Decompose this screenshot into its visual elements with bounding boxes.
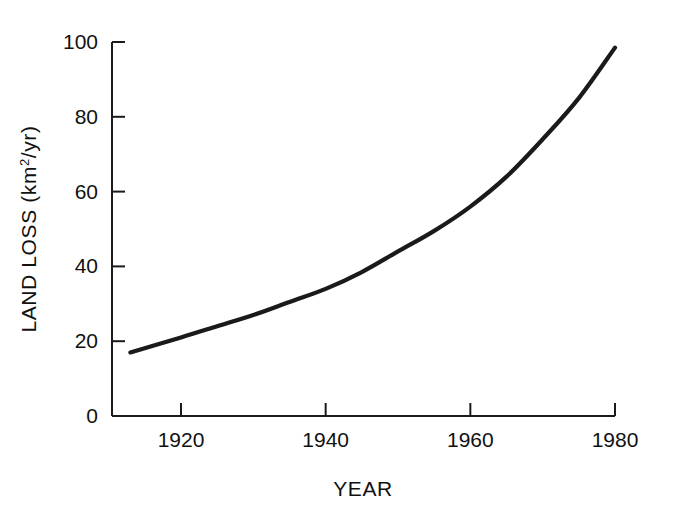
y-axis-title: LAND LOSS (km2/yr) bbox=[17, 125, 40, 332]
x-tick-label-1980: 1980 bbox=[592, 428, 639, 451]
y-tick-label-40: 40 bbox=[75, 254, 98, 277]
x-tick-label-1940: 1940 bbox=[302, 428, 349, 451]
y-axis-title-tail: /yr) bbox=[17, 125, 40, 158]
y-axis-title-group: LAND LOSS (km2/yr) bbox=[17, 125, 40, 332]
figure-container: 020406080100 1920194019601980 YEAR LAND … bbox=[0, 0, 682, 517]
x-tick-label-1920: 1920 bbox=[158, 428, 205, 451]
y-tick-label-60: 60 bbox=[75, 180, 98, 203]
y-tick-label-20: 20 bbox=[75, 329, 98, 352]
x-axis-title: YEAR bbox=[333, 477, 393, 500]
land-loss-line-chart: 020406080100 1920194019601980 YEAR LAND … bbox=[0, 0, 682, 517]
x-tick-label-1960: 1960 bbox=[447, 428, 494, 451]
y-axis-title-base: LAND LOSS (km bbox=[17, 166, 40, 333]
y-axis-title-superscript: 2 bbox=[17, 158, 32, 166]
y-tick-label-0: 0 bbox=[86, 404, 98, 427]
y-tick-label-100: 100 bbox=[63, 30, 98, 53]
y-tick-label-80: 80 bbox=[75, 105, 98, 128]
